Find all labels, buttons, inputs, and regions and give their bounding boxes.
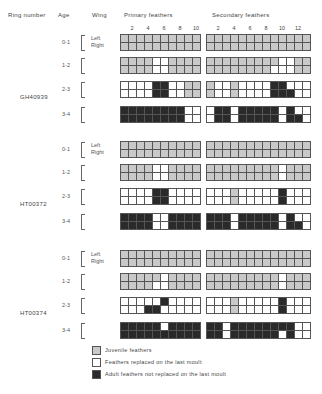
feather-cell xyxy=(239,90,246,97)
feather-cell xyxy=(295,251,302,258)
feather-cell xyxy=(129,82,136,89)
feather-cell xyxy=(129,189,136,196)
feather-cell xyxy=(215,66,222,73)
feather-cell xyxy=(153,43,160,50)
feather-cell xyxy=(295,298,302,305)
primary-feather-grid xyxy=(120,34,201,51)
feather-cell xyxy=(255,323,262,330)
header-secondary: Secondary feathers xyxy=(212,12,269,18)
feather-cell xyxy=(207,115,214,122)
secondary-tick: 12 xyxy=(292,25,304,31)
feather-cell xyxy=(295,115,302,122)
feather-cell xyxy=(161,173,168,180)
secondary-feather-grid xyxy=(206,213,311,230)
feather-cell xyxy=(247,66,254,73)
primary-feather-grid xyxy=(120,106,201,123)
feather-cell xyxy=(137,331,144,338)
feather-cell xyxy=(223,107,230,114)
primary-feather-grid xyxy=(120,164,201,181)
feather-cell xyxy=(177,165,184,172)
feather-cell xyxy=(263,142,270,149)
feather-cell xyxy=(193,189,200,196)
feather-cell xyxy=(255,107,262,114)
feather-cell xyxy=(287,107,294,114)
feather-cell xyxy=(247,82,254,89)
feather-cell xyxy=(247,323,254,330)
feather-cell xyxy=(271,150,278,157)
feather-cell xyxy=(271,173,278,180)
feather-cell xyxy=(121,189,128,196)
feather-cell xyxy=(231,115,238,122)
feather-cell xyxy=(177,115,184,122)
feather-cell xyxy=(137,107,144,114)
feather-cell xyxy=(239,82,246,89)
feather-cell xyxy=(153,306,160,313)
feather-cell xyxy=(193,274,200,281)
feather-cell xyxy=(287,90,294,97)
feather-cell xyxy=(169,331,176,338)
feather-cell xyxy=(255,58,262,65)
feather-cell xyxy=(161,197,168,204)
feather-cell xyxy=(121,43,128,50)
feather-cell xyxy=(263,150,270,157)
feather-cell xyxy=(231,189,238,196)
feather-cell xyxy=(207,222,214,229)
feather-cell xyxy=(303,306,310,313)
feather-cell xyxy=(263,323,270,330)
feather-cell xyxy=(153,331,160,338)
feather-cell xyxy=(279,197,286,204)
feather-cell xyxy=(153,90,160,97)
feather-cell xyxy=(263,259,270,266)
primary-tick: 10 xyxy=(190,25,202,31)
feather-cell xyxy=(231,142,238,149)
age-label: 2-3 xyxy=(56,86,76,92)
secondary-tick: 10 xyxy=(276,25,288,31)
secondary-feather-grid xyxy=(206,106,311,123)
feather-cell xyxy=(247,107,254,114)
feather-cell xyxy=(295,43,302,50)
feather-cell xyxy=(295,259,302,266)
feather-cell xyxy=(169,214,176,221)
feather-cell xyxy=(215,107,222,114)
feather-cell xyxy=(247,150,254,157)
feather-cell xyxy=(247,259,254,266)
feather-cell xyxy=(193,82,200,89)
feather-cell xyxy=(247,173,254,180)
feather-cell xyxy=(303,331,310,338)
feather-cell xyxy=(145,197,152,204)
feather-cell xyxy=(153,251,160,258)
feather-cell xyxy=(279,58,286,65)
feather-cell xyxy=(247,274,254,281)
feather-cell xyxy=(263,90,270,97)
feather-cell xyxy=(193,43,200,50)
feather-cell xyxy=(169,35,176,42)
feather-cell xyxy=(255,298,262,305)
feather-cell xyxy=(303,107,310,114)
feather-cell xyxy=(137,142,144,149)
feather-cell xyxy=(287,282,294,289)
feather-cell xyxy=(129,173,136,180)
feather-cell xyxy=(177,173,184,180)
feather-cell xyxy=(295,150,302,157)
feather-cell xyxy=(239,331,246,338)
feather-cell xyxy=(247,189,254,196)
feather-cell xyxy=(295,173,302,180)
feather-cell xyxy=(153,107,160,114)
feather-cell xyxy=(279,214,286,221)
feather-cell xyxy=(295,222,302,229)
feather-cell xyxy=(295,165,302,172)
feather-cell xyxy=(153,142,160,149)
feather-cell xyxy=(193,306,200,313)
feather-cell xyxy=(223,298,230,305)
feather-cell xyxy=(207,323,214,330)
wing-bracket xyxy=(81,107,85,123)
feather-cell xyxy=(177,331,184,338)
secondary-feather-grid xyxy=(206,81,311,98)
feather-cell xyxy=(177,222,184,229)
feather-cell xyxy=(255,197,262,204)
feather-cell xyxy=(215,222,222,229)
feather-cell xyxy=(129,43,136,50)
feather-cell xyxy=(303,222,310,229)
feather-cell xyxy=(153,298,160,305)
feather-cell xyxy=(207,282,214,289)
